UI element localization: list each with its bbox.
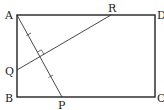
rectangle-abcd xyxy=(17,15,155,97)
label-a: A xyxy=(4,9,14,22)
label-d: D xyxy=(157,9,164,22)
label-r: R xyxy=(108,2,117,15)
segment-qr xyxy=(17,15,111,70)
label-b: B xyxy=(5,92,13,105)
label-q: Q xyxy=(5,65,14,78)
geometry-figure: A D B C R Q P xyxy=(0,0,164,110)
segment-ap xyxy=(17,15,62,97)
label-p: P xyxy=(58,99,66,110)
label-c: C xyxy=(157,92,164,105)
